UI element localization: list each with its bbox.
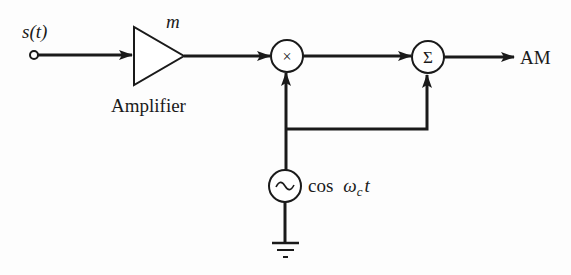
multiplier-node: × (271, 40, 303, 72)
ground-icon (272, 243, 299, 257)
output-label: AM (520, 47, 551, 68)
summer-node: Σ (412, 41, 444, 73)
input-label: s(t) (22, 21, 47, 43)
oscillator-label: cosωct (308, 175, 371, 199)
sigma-icon: Σ (423, 48, 433, 67)
carrier-branch-line (286, 75, 427, 129)
multiply-icon: × (282, 48, 291, 65)
input-terminal (30, 51, 38, 59)
oscillator-node (269, 170, 301, 202)
amplifier-gain-label: m (166, 11, 180, 32)
amplifier-triangle (134, 27, 184, 85)
am-modulator-diagram: s(t) m Amplifier × Σ AM (0, 0, 571, 275)
amplifier-label: Amplifier (111, 95, 187, 116)
